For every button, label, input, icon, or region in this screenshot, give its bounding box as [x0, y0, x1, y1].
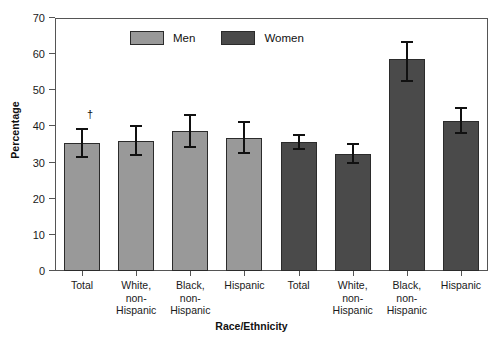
bar-chart: 010203040506070 Percentage † TotalWhite,… [0, 0, 503, 345]
y-tick-label: 70 [0, 10, 45, 26]
chart-legend: MenWomen [130, 31, 304, 45]
y-tick-label: 50 [0, 82, 45, 98]
error-bar-cap-top [455, 107, 467, 109]
error-bar-cap-top [130, 125, 142, 127]
x-tick-mark [407, 271, 408, 276]
bar-group-men-total[interactable]: † [64, 0, 100, 271]
error-bar-cap-bottom [401, 80, 413, 82]
bar-men-total[interactable] [64, 143, 100, 271]
x-tick-label-line: non- [365, 292, 449, 305]
legend-swatch-men [130, 31, 164, 45]
bar-women-hispanic[interactable] [443, 121, 479, 271]
error-bar-cap-bottom [184, 146, 196, 148]
legend-item-women[interactable]: Women [221, 31, 303, 45]
bar-group-women-hispanic[interactable] [443, 0, 479, 271]
y-tick-label: 30 [0, 155, 45, 171]
error-bar-line [243, 121, 245, 154]
x-tick-mark [244, 271, 245, 276]
error-bar-cap-bottom [238, 152, 250, 154]
error-bar-cap-top [293, 134, 305, 136]
bar-women-white-non-hispanic[interactable] [335, 154, 371, 271]
y-tick-label: 0 [0, 263, 45, 279]
error-bar-line [460, 107, 462, 133]
y-tick-label: 60 [0, 46, 45, 62]
bar-group-women-black-non-hispanic[interactable] [389, 0, 425, 271]
error-bar-line [135, 125, 137, 156]
error-bar-cap-bottom [293, 148, 305, 150]
y-tick-label: 10 [0, 227, 45, 243]
x-tick-mark [136, 271, 137, 276]
x-tick-label-women-hispanic: Hispanic [419, 279, 503, 292]
x-axis-title: Race/Ethnicity [0, 320, 503, 332]
bar-men-hispanic[interactable] [226, 138, 262, 271]
error-bar-cap-bottom [455, 132, 467, 134]
bar-men-white-non-hispanic[interactable] [118, 141, 154, 271]
error-bar-line [81, 128, 83, 158]
x-tick-mark [190, 271, 191, 276]
x-tick-label-line: Hispanic [365, 304, 449, 317]
legend-label-men: Men [173, 32, 195, 44]
error-bar-line [406, 41, 408, 81]
error-bar-cap-top [184, 114, 196, 116]
bar-women-black-non-hispanic[interactable] [389, 59, 425, 271]
x-tick-mark [82, 271, 83, 276]
bar-women-total[interactable] [281, 142, 317, 271]
y-axis-title: Percentage [9, 70, 21, 190]
error-bar-line [189, 114, 191, 148]
error-bar-cap-bottom [130, 154, 142, 156]
error-bar-cap-top [347, 143, 359, 145]
error-bar-cap-top [76, 128, 88, 130]
error-bar-cap-top [401, 41, 413, 43]
legend-swatch-women [221, 31, 255, 45]
legend-item-men[interactable]: Men [130, 31, 195, 45]
bar-group-women-white-non-hispanic[interactable] [335, 0, 371, 271]
error-bar-line [352, 143, 354, 164]
bar-men-black-non-hispanic[interactable] [172, 131, 208, 271]
x-tick-mark [353, 271, 354, 276]
error-bar-cap-bottom [76, 156, 88, 158]
y-tick-label: 40 [0, 118, 45, 134]
legend-label-women: Women [264, 32, 303, 44]
x-tick-label-line: non- [148, 292, 232, 305]
bar-annotation-men-total: † [78, 109, 102, 120]
y-tick-label: 20 [0, 191, 45, 207]
x-tick-mark [461, 271, 462, 276]
error-bar-cap-top [238, 121, 250, 123]
x-tick-label-line: Hispanic [419, 279, 503, 292]
x-tick-mark [299, 271, 300, 276]
error-bar-cap-bottom [347, 162, 359, 164]
x-tick-label-line: Hispanic [148, 304, 232, 317]
